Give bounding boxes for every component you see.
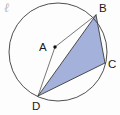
vertex-label-a: A bbox=[39, 41, 47, 53]
circle-name-script-mark: ℓ bbox=[4, 0, 10, 15]
geometry-diagram: ABCD ℓ bbox=[0, 0, 120, 115]
vertex-label-b: B bbox=[99, 2, 107, 14]
vertex-label-c: C bbox=[108, 58, 116, 70]
center-point-dot-a bbox=[53, 45, 56, 48]
vertex-dots-group bbox=[53, 45, 56, 48]
diagram-canvas: ABCD ℓ bbox=[0, 0, 120, 115]
vertex-label-d: D bbox=[32, 100, 40, 112]
